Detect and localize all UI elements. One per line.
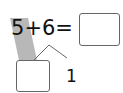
decomposition-part: 1 [66,66,77,86]
decomposition-box[interactable] [16,60,50,92]
